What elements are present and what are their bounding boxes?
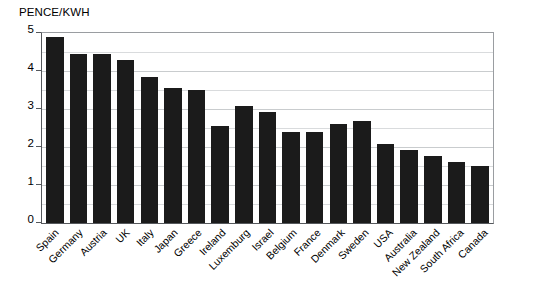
- bar[interactable]: [188, 90, 205, 223]
- bar-slot: [374, 33, 398, 223]
- bar[interactable]: [235, 106, 252, 223]
- bar[interactable]: [471, 166, 488, 223]
- bar[interactable]: [330, 124, 347, 223]
- bar-slot: [256, 33, 280, 223]
- bar[interactable]: [70, 54, 87, 223]
- bar[interactable]: [306, 132, 323, 223]
- bar-slot: [43, 33, 67, 223]
- bar[interactable]: [117, 60, 134, 223]
- bar[interactable]: [259, 112, 276, 223]
- x-tick-label: UK: [114, 227, 132, 245]
- bar-slot: [445, 33, 469, 223]
- bar[interactable]: [93, 54, 110, 223]
- y-tick-label: 4: [28, 62, 34, 74]
- bar[interactable]: [400, 150, 417, 223]
- bar[interactable]: [211, 126, 228, 223]
- bar[interactable]: [46, 37, 63, 223]
- bar[interactable]: [141, 77, 158, 223]
- bar-chart: PENCE/KWH 012345 SpainGermanyAustriaUKIt…: [0, 0, 536, 298]
- bar[interactable]: [282, 132, 299, 223]
- bar-slot: [208, 33, 232, 223]
- bar-slot: [327, 33, 351, 223]
- y-axis: 012345: [0, 32, 41, 224]
- y-tick-label: 0: [28, 214, 34, 226]
- y-tick-label: 5: [28, 24, 34, 36]
- bar-slot: [114, 33, 138, 223]
- bar[interactable]: [448, 162, 465, 223]
- x-axis: SpainGermanyAustriaUKItalyJapanGreeceIre…: [41, 224, 494, 298]
- bar-slot: [161, 33, 185, 223]
- bar[interactable]: [377, 144, 394, 223]
- bar-slot: [421, 33, 445, 223]
- bar-slot: [350, 33, 374, 223]
- bars-container: [42, 33, 493, 223]
- bar-slot: [67, 33, 91, 223]
- chart-title: PENCE/KWH: [19, 6, 90, 18]
- bar-slot: [138, 33, 162, 223]
- bar-slot: [185, 33, 209, 223]
- bar-slot: [90, 33, 114, 223]
- bar-slot: [468, 33, 492, 223]
- bar[interactable]: [353, 121, 370, 223]
- bar-slot: [232, 33, 256, 223]
- y-tick-label: 3: [28, 100, 34, 112]
- bar[interactable]: [424, 156, 441, 223]
- plot-area: [41, 32, 494, 224]
- y-tick-label: 1: [28, 176, 34, 188]
- bar[interactable]: [164, 88, 181, 223]
- y-tick-label: 2: [28, 138, 34, 150]
- bar-slot: [279, 33, 303, 223]
- bar-slot: [397, 33, 421, 223]
- bar-slot: [303, 33, 327, 223]
